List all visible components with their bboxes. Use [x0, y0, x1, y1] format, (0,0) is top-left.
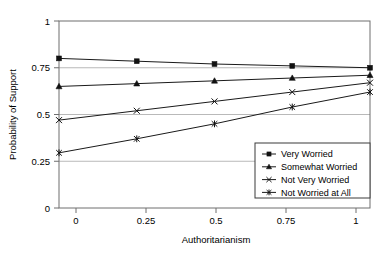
- y-axis-title: Probability of Support: [7, 69, 18, 160]
- data-point: [212, 62, 217, 67]
- chart-background: [0, 0, 389, 253]
- x-tick-label-0: 0: [73, 215, 78, 226]
- y-tick-label-0: 0: [45, 203, 50, 214]
- data-point: [134, 59, 139, 64]
- data-point: [290, 63, 295, 68]
- y-tick-label-075: 0.75: [32, 62, 51, 73]
- chart-page: 1 0.75 0.5 0.25 0 0 0.25 0.5 0.75 1 Auth…: [0, 0, 389, 253]
- x-axis-title: Authoritarianism: [182, 234, 251, 245]
- x-tick-label-05: 0.5: [209, 215, 222, 226]
- data-point: [57, 56, 62, 61]
- x-tick-label-025: 0.25: [137, 215, 156, 226]
- line-chart: 1 0.75 0.5 0.25 0 0 0.25 0.5 0.75 1 Auth…: [0, 0, 389, 253]
- y-tick-label-025: 0.25: [32, 156, 51, 167]
- x-tick-label-1: 1: [353, 215, 358, 226]
- legend-item-label: Not Worried at All: [281, 188, 351, 198]
- legend-item-label: Very Worried: [281, 149, 333, 159]
- y-tick-label-05: 0.5: [37, 109, 50, 120]
- legend[interactable]: Very WorriedSomewhat WorriedNot Very Wor…: [255, 143, 370, 198]
- data-point: [368, 65, 373, 70]
- legend-item-label: Not Very Worried: [281, 175, 349, 185]
- legend-item-label: Somewhat Worried: [281, 162, 357, 172]
- legend-marker-icon: [267, 152, 271, 156]
- y-tick-label-1: 1: [45, 16, 50, 27]
- x-tick-label-075: 0.75: [277, 215, 296, 226]
